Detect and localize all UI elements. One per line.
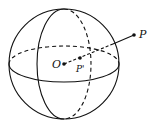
ray-outside (113, 35, 134, 44)
sphere-diagram: O P' P (0, 0, 150, 137)
point-center (62, 62, 66, 66)
point-inner (78, 56, 82, 60)
label-outer-point: P (138, 28, 147, 41)
equator-front (9, 64, 119, 82)
point-outer (132, 33, 136, 37)
ray-inside (64, 44, 113, 64)
label-center: O (52, 58, 61, 71)
label-inner-point: P' (75, 64, 85, 74)
